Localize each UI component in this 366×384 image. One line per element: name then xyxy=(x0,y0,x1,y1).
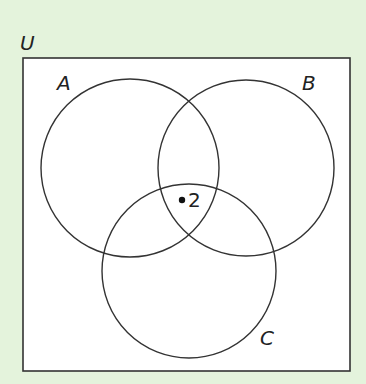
venn-diagram: U A B C 2 xyxy=(0,0,366,384)
universal-set-box xyxy=(23,58,350,371)
set-c-label: C xyxy=(260,326,274,350)
element-dot xyxy=(179,197,185,203)
universal-set-label: U xyxy=(20,31,35,55)
set-b-label: B xyxy=(302,71,316,95)
set-a-label: A xyxy=(55,71,71,95)
element-value: 2 xyxy=(188,188,201,212)
